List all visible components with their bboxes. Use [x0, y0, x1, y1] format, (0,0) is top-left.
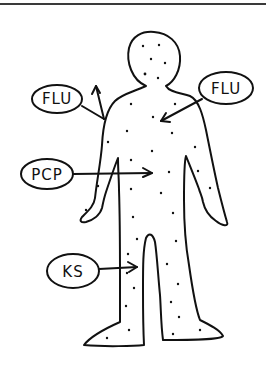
label-flu-right: FLU — [199, 72, 253, 104]
svg-text:PCP: PCP — [31, 166, 63, 184]
label-pcp: PCP — [21, 159, 73, 189]
lesion-dots — [85, 44, 211, 339]
svg-text:FLU: FLU — [211, 80, 241, 98]
body-diagram: FLU FLU PCP KS — [0, 0, 266, 375]
label-flu-left: FLU — [32, 85, 82, 113]
arrow-ks — [99, 267, 137, 269]
body-outline — [81, 32, 228, 346]
svg-text:KS: KS — [62, 263, 83, 281]
svg-text:FLU: FLU — [42, 90, 72, 108]
arrow-pcp — [73, 173, 152, 174]
arrow-flu-right — [161, 99, 202, 121]
label-ks: KS — [47, 254, 99, 288]
